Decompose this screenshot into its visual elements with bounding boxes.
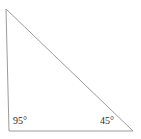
triangle-outline <box>6 9 133 131</box>
triangle-figure: 95° 45° <box>0 0 141 139</box>
angle-label-bottom-right: 45° <box>100 116 114 126</box>
angle-label-bottom-left: 95° <box>13 116 27 126</box>
